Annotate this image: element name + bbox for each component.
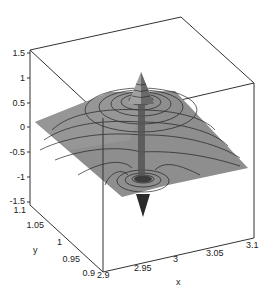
z-tick: -0.5: [9, 147, 25, 157]
z-tick: -1: [17, 172, 25, 182]
y-tick: 1: [57, 237, 62, 247]
x-tick: 3.05: [206, 248, 224, 258]
y-tick: 1.05: [26, 220, 44, 230]
y-tick: 0.9: [82, 268, 95, 278]
z-tick: 1.5: [12, 48, 25, 58]
y-axis-label: y: [33, 245, 38, 255]
z-tick: 0: [20, 122, 25, 132]
z-tick: 0.5: [12, 98, 25, 108]
z-tick: 1: [20, 73, 25, 83]
x-tick: 2.9: [97, 270, 110, 280]
surface-plot: 1.5 1 0.5 0 -0.5 -1 -1.5 1.1 1.05 1 0.95…: [0, 0, 269, 303]
y-tick: 1.1: [13, 205, 26, 215]
x-tick: 3: [173, 254, 178, 264]
x-tick: 3.1: [246, 240, 259, 250]
x-axis-label: x: [176, 277, 181, 287]
y-tick: 0.95: [62, 254, 80, 264]
negative-spike: [136, 194, 150, 217]
x-tick: 2.95: [134, 263, 152, 273]
